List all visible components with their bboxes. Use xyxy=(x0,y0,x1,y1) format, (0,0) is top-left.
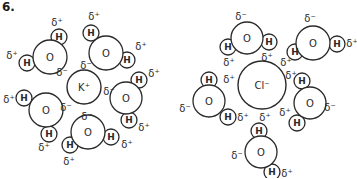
partial-charge-label: δ⁺ xyxy=(135,41,146,52)
partial-charge-label: δ⁺ xyxy=(38,142,49,153)
oxygen-label: O xyxy=(42,105,50,116)
hydrogen-label: H xyxy=(333,39,341,49)
partial-charge-label: δ⁻ xyxy=(81,111,92,122)
oxygen-label: O xyxy=(243,33,251,44)
oxygen-label: O xyxy=(205,96,213,107)
partial-charge-label: δ⁺ xyxy=(261,52,272,63)
water-molecule: HHOδ⁻δ⁺δ⁺ xyxy=(279,70,335,132)
partial-charge-label: δ⁺ xyxy=(138,122,149,133)
hydrogen-label: H xyxy=(20,93,28,103)
hydrogen-label: H xyxy=(23,58,31,68)
oxygen-label: O xyxy=(306,98,314,109)
oxygen-label: O xyxy=(46,52,54,63)
partial-charge-label: δ⁺ xyxy=(223,74,234,85)
partial-charge-label: δ⁺ xyxy=(223,57,234,68)
diagram-canvas: 6. K⁺HHOδ⁺δ⁺δ⁻HHOδ⁺δ⁺δ⁻HHOδ⁺δ⁺δ⁻HHOδ⁺δ⁺δ… xyxy=(0,0,357,178)
oxygen-label: O xyxy=(102,48,110,59)
partial-charge-label: δ⁻ xyxy=(103,86,114,97)
oxygen-label: O xyxy=(309,38,317,49)
hydrogen-label: H xyxy=(205,75,213,85)
water-molecule: HHOδ⁺δ⁺δ⁻ xyxy=(103,68,159,133)
partial-charge-label: δ⁻ xyxy=(235,11,246,22)
hydrogen-label: H xyxy=(87,28,95,38)
hydrogen-label: H xyxy=(55,32,63,42)
figure-number: 6. xyxy=(2,0,15,14)
hydrogen-label: H xyxy=(293,118,301,128)
partial-charge-label: δ⁺ xyxy=(281,168,292,179)
partial-charge-label: δ⁺ xyxy=(51,17,62,28)
hydrogen-label: H xyxy=(66,140,74,150)
partial-charge-label: δ⁻ xyxy=(60,102,71,113)
hydrogen-label: H xyxy=(135,75,143,85)
partial-charge-label: δ⁻ xyxy=(231,150,242,161)
partial-charge-label: δ⁺ xyxy=(279,107,290,118)
oxygen-label: O xyxy=(84,127,92,138)
partial-charge-label: δ⁺ xyxy=(259,112,270,123)
hydrogen-label: H xyxy=(224,112,232,122)
hydrogen-label: H xyxy=(107,132,115,142)
partial-charge-label: δ⁺ xyxy=(6,50,17,61)
hydrogen-label: H xyxy=(255,126,263,136)
water-molecule: HHOδ⁺δ⁺δ⁻ xyxy=(6,17,67,78)
partial-charge-label: δ⁺ xyxy=(3,94,14,105)
partial-charge-label: δ⁺ xyxy=(88,11,99,22)
partial-charge-label: δ⁺ xyxy=(148,68,159,79)
hydrogen-label: H xyxy=(268,167,276,177)
partial-charge-label: δ⁺ xyxy=(121,139,132,150)
partial-charge-label: δ⁻ xyxy=(179,103,190,114)
partial-charge-label: δ⁺ xyxy=(280,57,291,68)
clusters-group: K⁺HHOδ⁺δ⁺δ⁻HHOδ⁺δ⁺δ⁻HHOδ⁺δ⁺δ⁻HHOδ⁺δ⁺δ⁻HH… xyxy=(3,11,357,179)
hydrogen-label: H xyxy=(224,42,232,52)
water-molecule: HHOδ⁻δ⁺δ⁺ xyxy=(220,11,277,68)
water-molecule: HHOδ⁺δ⁺δ⁻ xyxy=(80,11,146,71)
hydrogen-label: H xyxy=(298,76,306,86)
oxygen-label: O xyxy=(257,147,265,158)
chloride-hydration-cluster: Cl⁻HHOδ⁻δ⁺δ⁺HHOδ⁻δ⁺δ⁺HHOδ⁻δ⁺δ⁺HHOδ⁻δ⁺δ⁺H… xyxy=(179,11,357,179)
partial-charge-label: δ⁺ xyxy=(285,70,296,81)
partial-charge-label: δ⁺ xyxy=(346,38,357,49)
hydration-diagram: 6. K⁺HHOδ⁺δ⁺δ⁻HHOδ⁺δ⁺δ⁻HHOδ⁺δ⁺δ⁻HHOδ⁺δ⁺δ… xyxy=(0,0,357,178)
hydrogen-label: H xyxy=(125,115,133,125)
ion-label: Cl⁻ xyxy=(254,80,269,91)
partial-charge-label: δ⁻ xyxy=(80,60,91,71)
hydrogen-label: H xyxy=(123,55,131,65)
water-molecule: HHOδ⁻δ⁺δ⁺ xyxy=(280,13,357,68)
partial-charge-label: δ⁻ xyxy=(56,67,67,78)
hydrogen-label: H xyxy=(45,129,53,139)
oxygen-label: O xyxy=(122,93,130,104)
ion-label: K⁺ xyxy=(78,82,90,93)
potassium-hydration-cluster: K⁺HHOδ⁺δ⁺δ⁻HHOδ⁺δ⁺δ⁻HHOδ⁺δ⁺δ⁻HHOδ⁺δ⁺δ⁻HH… xyxy=(3,11,159,167)
hydrogen-label: H xyxy=(291,47,299,57)
partial-charge-label: δ⁻ xyxy=(324,102,335,113)
partial-charge-label: δ⁺ xyxy=(63,156,74,167)
partial-charge-label: δ⁻ xyxy=(304,13,315,24)
partial-charge-label: δ⁺ xyxy=(237,112,248,123)
hydrogen-label: H xyxy=(265,37,273,47)
water-molecule: HHOδ⁺δ⁺δ⁻ xyxy=(3,90,71,153)
